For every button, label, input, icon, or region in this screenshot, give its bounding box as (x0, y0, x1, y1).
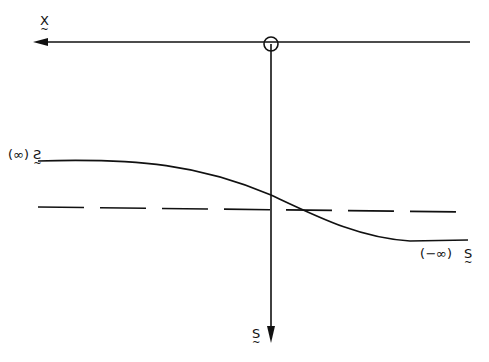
s-minus-inf-paren: (∞−) (420, 247, 452, 260)
sigmoid-curve (38, 160, 468, 241)
s-plus-inf-label: (∞) S ~ (8, 148, 42, 167)
s-label-tilde: ~ (252, 340, 260, 346)
diagram-canvas (0, 0, 489, 362)
x-axis-label: X ~ (40, 14, 49, 33)
x-label-tilde: ~ (40, 27, 49, 33)
dashed-line (38, 207, 468, 212)
s-plus-inf-symbol: S (33, 148, 41, 161)
s-axis-label: S ~ (252, 327, 260, 346)
s-axis-arrowhead (267, 326, 275, 343)
x-axis-arrowhead (33, 38, 48, 46)
s-minus-inf-label: (∞−) S ~ (420, 247, 472, 266)
s-plus-inf-paren: (∞) (8, 148, 29, 161)
